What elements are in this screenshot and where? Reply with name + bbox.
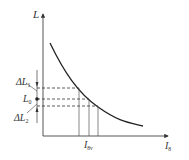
leader-delta-lower xyxy=(27,104,37,113)
x-tick-label: I8v xyxy=(83,139,93,151)
delta-upper-label: ΔL1 xyxy=(15,76,30,88)
arrow-up-icon xyxy=(36,107,39,112)
x-axis-label: I8 xyxy=(164,140,171,152)
y-axis-label: L xyxy=(32,8,39,20)
l0-point xyxy=(35,97,39,101)
l0-label: L0 xyxy=(22,93,32,105)
arrow-down-icon xyxy=(36,82,39,87)
l-curve xyxy=(50,43,143,126)
delta-lower-label: ΔL2 xyxy=(13,112,28,124)
diagram-canvas: L ΔL1 L0 ΔL2 I8v I8 xyxy=(0,0,189,160)
